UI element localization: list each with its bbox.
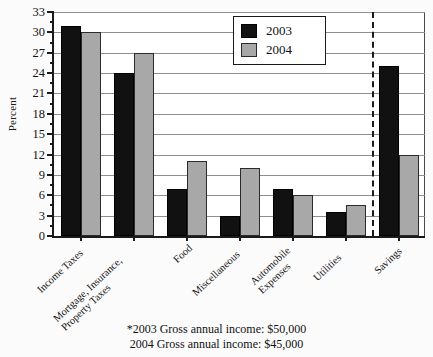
y-axis-minor-tick [50, 62, 54, 64]
x-axis-tick [292, 236, 294, 241]
savings-separator-dashed-line [372, 12, 374, 236]
y-axis-tick [47, 194, 54, 196]
gridline [54, 93, 425, 94]
x-axis-tick [398, 236, 400, 241]
bar-2004-0 [81, 32, 101, 236]
y-axis-minor-tick [50, 123, 54, 125]
y-axis-tick [47, 52, 54, 54]
y-axis-tick [47, 92, 54, 94]
bar-2004-4 [293, 195, 313, 236]
x-axis-label-0: Income Taxes [35, 247, 85, 295]
x-axis-label-line: Savings [372, 245, 404, 276]
bar-chart-figure: Percent 03691215182124273033 Income Taxe… [0, 0, 433, 357]
gray-square-icon [241, 43, 257, 57]
x-axis-label-5: Utilities [311, 252, 344, 283]
gridline [54, 73, 425, 74]
y-axis-minor-tick [50, 164, 54, 166]
footnote-line-1: *2003 Gross annual income: $50,000 [0, 322, 433, 337]
y-axis-title: Percent [6, 84, 18, 144]
y-axis-minor-tick [50, 143, 54, 145]
y-axis-tick [47, 72, 54, 74]
y-axis-tick-label: 30 [33, 25, 46, 40]
x-axis-label-line: Utilities [311, 252, 344, 283]
y-axis-minor-tick [50, 21, 54, 23]
gridline [54, 134, 425, 135]
gridline [54, 155, 425, 156]
footnote-line-2: 2004 Gross annual income: $45,000 [0, 337, 433, 352]
legend-item-2003: 2003 [241, 21, 319, 40]
y-axis-minor-tick [50, 103, 54, 105]
y-axis-tick [47, 154, 54, 156]
y-axis-tick-label: 27 [33, 45, 46, 60]
y-axis-tick-label: 9 [39, 167, 45, 182]
x-axis-tick [186, 236, 188, 241]
x-axis-label-line: Miscellaneous [190, 249, 242, 299]
x-axis-label-3: Miscellaneous [190, 249, 242, 299]
bar-2003-6 [379, 66, 399, 236]
x-axis-tick [239, 236, 241, 241]
y-axis-tick [47, 215, 54, 217]
y-axis-tick [47, 31, 54, 33]
y-axis-tick-label: 6 [39, 188, 45, 203]
footnote-block: *2003 Gross annual income: $50,000 2004 … [0, 322, 433, 352]
y-axis-tick-label: 33 [33, 5, 46, 20]
y-axis-tick-label: 21 [33, 86, 46, 101]
bar-2004-3 [240, 168, 260, 236]
x-axis-tick [345, 236, 347, 241]
y-axis-tick-label: 24 [33, 66, 46, 81]
x-axis-label-line: Food [171, 242, 195, 265]
y-axis-minor-tick [50, 184, 54, 186]
legend-label-2004: 2004 [266, 42, 292, 58]
bar-2003-1 [114, 73, 134, 236]
x-axis-label-2: Food [171, 242, 195, 265]
bar-2003-3 [220, 216, 240, 236]
gridline [54, 114, 425, 115]
legend: 2003 2004 [233, 16, 326, 65]
y-axis-tick-label: 15 [33, 127, 46, 142]
y-axis-minor-tick [50, 204, 54, 206]
plot-right-border [424, 12, 425, 236]
y-axis-tick [47, 133, 54, 135]
bar-2004-5 [346, 205, 366, 236]
bar-2003-5 [326, 212, 346, 236]
x-axis-label-line: Income Taxes [35, 247, 85, 295]
bar-2004-2 [187, 161, 207, 236]
bar-2004-1 [134, 53, 154, 236]
legend-label-2003: 2003 [266, 23, 292, 39]
x-axis-tick [80, 236, 82, 241]
y-axis-tick [47, 235, 54, 237]
y-axis-tick [47, 174, 54, 176]
bar-2003-2 [167, 189, 187, 237]
bar-2004-6 [399, 155, 419, 236]
bar-2003-4 [273, 189, 293, 237]
y-axis-tick-label: 3 [39, 208, 45, 223]
gridline [54, 12, 425, 13]
y-axis-tick-label: 18 [33, 106, 46, 121]
y-axis-minor-tick [50, 42, 54, 44]
y-axis-tick-label: 0 [39, 229, 45, 244]
x-axis-label-6: Savings [372, 245, 404, 276]
y-axis-tick-label: 12 [33, 147, 46, 162]
x-axis-tick [133, 236, 135, 241]
y-axis-tick [47, 113, 54, 115]
black-square-icon [241, 24, 257, 38]
y-axis-tick [47, 11, 54, 13]
x-axis-label-4: AutomobileExpenses [248, 245, 300, 296]
y-axis-minor-tick [50, 82, 54, 84]
legend-item-2004: 2004 [241, 40, 319, 59]
y-axis-minor-tick [50, 225, 54, 227]
bar-2003-0 [61, 26, 81, 236]
